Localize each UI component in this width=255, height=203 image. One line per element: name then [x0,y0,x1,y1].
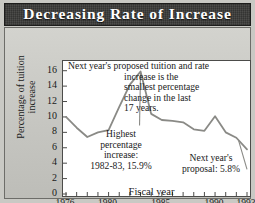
y-tick-label: 0 [35,187,57,198]
x-tick-label: 1976 [49,198,81,203]
annotation-highest-increase: Highest percentage increase: 1982-83, 15… [83,129,159,171]
x-tick-label: 1993 [230,198,255,203]
annotation-highest-line-4: 1982-83, 15.9% [83,161,159,172]
y-tick-label: 12 [35,95,57,106]
annotation-top-line-1: Next year's proposed tuition and rate [68,61,250,72]
chart-title-bar: Decreasing Rate of Increase [4,3,251,26]
y-tick-label: 16 [35,64,57,75]
y-axis-label: Percentage of tuition increase [15,45,37,149]
x-axis-label-text: Fiscal year [129,186,175,197]
chart-figure: Decreasing Rate of Increase Percentage o… [0,0,255,203]
y-tick-label: 6 [35,141,57,152]
y-tick-label: 14 [35,79,57,90]
x-tick-label: 1985 [145,198,177,203]
annotation-proposal-line-1: Next year's [173,153,249,164]
x-tick-label: 1980 [92,198,124,203]
annotation-top-line-5: 17 years. [124,103,250,114]
annotation-next-year-proposal: Next year's proposal: 5.8% [173,153,249,174]
annotation-highest-line-1: Highest [83,129,159,140]
chart-plate: Percentage of tuition increase 024681012… [4,27,251,199]
y-tick-label: 2 [35,172,57,183]
page-title: Decreasing Rate of Increase [4,5,251,23]
annotation-smallest-change: Next year's proposed tuition and rate in… [68,61,250,114]
y-tick-label: 4 [35,156,57,167]
x-axis-label: Fiscal year [57,186,246,197]
y-tick-label: 10 [35,110,57,121]
x-tick-label: 1990 [198,198,230,203]
annotation-proposal-line-2: proposal: 5.8% [173,164,249,175]
y-axis-label-text: Percentage of tuition increase [15,55,37,138]
y-tick-label: 8 [35,125,57,136]
